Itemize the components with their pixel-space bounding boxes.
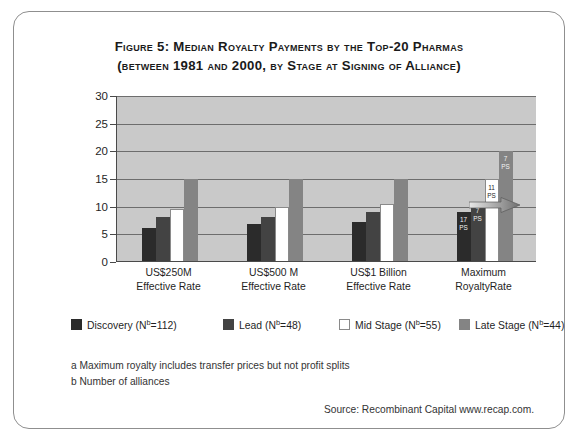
legend-item: Lead (Nb=48) xyxy=(223,318,301,331)
x-axis-labels: US$250MEffective RateUS$500 MEffective R… xyxy=(116,266,536,300)
legend-item: Mid Stage (Nb=55) xyxy=(339,318,441,331)
legend-label: Mid Stage (Nb=55) xyxy=(355,318,441,331)
bar: 11PS xyxy=(485,179,499,262)
footnote-a: a Maximum royalty includes transfer pric… xyxy=(71,360,350,371)
legend-label: Lead (Nb=48) xyxy=(239,318,301,331)
bar xyxy=(156,217,170,262)
bar-group: 17PS7PS11PS7PS xyxy=(432,96,537,262)
x-axis-line xyxy=(116,261,536,262)
footnote-b: b Number of alliances xyxy=(71,376,170,387)
bar xyxy=(380,204,394,262)
bar xyxy=(170,209,184,262)
bar xyxy=(289,179,303,262)
legend-swatch xyxy=(339,319,350,330)
plot-area: 17PS7PS11PS7PS xyxy=(116,96,536,262)
bar xyxy=(184,179,198,262)
bar xyxy=(366,212,380,262)
bar-value-label: 17PS xyxy=(457,216,471,232)
figure-title: Figure 5: Median Royalty Payments by the… xyxy=(14,37,564,75)
bar xyxy=(142,228,156,262)
legend-swatch xyxy=(223,319,234,330)
source-line: Source: Recombinant Capital www.recap.co… xyxy=(324,404,534,415)
right-arrow-icon xyxy=(469,197,521,213)
bar xyxy=(352,222,366,262)
y-axis-tick-label: 15 xyxy=(72,173,108,185)
bar-group xyxy=(327,96,432,262)
bar-group xyxy=(222,96,327,262)
y-axis-tick-label: 10 xyxy=(72,201,108,213)
bar-value-label: 7PS xyxy=(499,155,513,171)
x-axis-label: US$250MEffective Rate xyxy=(109,266,229,293)
y-axis-tick-mark xyxy=(110,262,116,263)
bar xyxy=(261,217,275,262)
bar xyxy=(247,224,261,262)
legend-label: Discovery (Nb=112) xyxy=(87,318,177,331)
legend-swatch xyxy=(459,319,470,330)
x-axis-label: US$500 MEffective Rate xyxy=(214,266,334,293)
legend-label: Late Stage (Nb=44) xyxy=(475,318,564,331)
chart-legend: Discovery (Nb=112)Lead (Nb=48)Mid Stage … xyxy=(71,318,541,336)
x-axis-label: US$1 BillionEffective Rate xyxy=(319,266,439,293)
y-axis-tick-label: 30 xyxy=(72,90,108,102)
x-axis-label: MaximumRoyaltyRate xyxy=(424,266,544,293)
legend-item: Late Stage (Nb=44) xyxy=(459,318,564,331)
y-axis-tick-label: 20 xyxy=(72,145,108,157)
y-axis-tick-label: 5 xyxy=(72,228,108,240)
y-axis-tick-label: 25 xyxy=(72,118,108,130)
y-axis-tick-label: 0 xyxy=(72,256,108,268)
bar-group xyxy=(117,96,222,262)
chart-plot: 051015202530 17PS7PS11PS7PS xyxy=(72,96,536,262)
bar: 17PS xyxy=(457,212,471,262)
figure-title-line-2: (between 1981 and 2000, by Stage at Sign… xyxy=(14,56,564,75)
legend-swatch xyxy=(71,319,82,330)
bar xyxy=(275,207,289,262)
bar xyxy=(394,179,408,262)
legend-item: Discovery (Nb=112) xyxy=(71,318,177,331)
figure-frame: Figure 5: Median Royalty Payments by the… xyxy=(13,11,565,429)
figure-title-line-1: Figure 5: Median Royalty Payments by the… xyxy=(14,37,564,56)
